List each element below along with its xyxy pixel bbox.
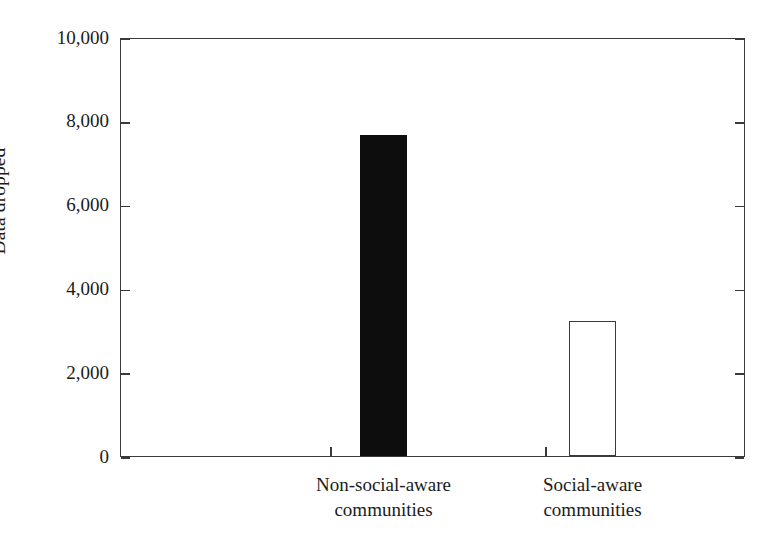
- y-tick-mark: [121, 206, 130, 208]
- y-tick-mark: [121, 290, 130, 292]
- x-tick-mark: [330, 447, 332, 456]
- y-tick-mark: [121, 122, 130, 124]
- x-axis-category-label: Non-social-awarecommunities: [264, 472, 504, 522]
- filled-black-bar: [360, 135, 407, 456]
- y-tick-mark: [735, 373, 744, 375]
- y-tick-mark: [121, 38, 130, 40]
- y-tick-label: 8,000: [0, 110, 109, 132]
- plot-area: 02,0004,0006,0008,00010,000Non-social-aw…: [120, 38, 745, 457]
- y-tick-mark: [735, 206, 744, 208]
- y-tick-label: 10,000: [0, 27, 109, 49]
- y-tick-label: 6,000: [0, 194, 109, 216]
- x-axis-category-label-line: communities: [264, 497, 504, 522]
- y-tick-label: 4,000: [0, 278, 109, 300]
- open-white-bar: [569, 321, 616, 456]
- bar-chart-figure: Data dropped 02,0004,0006,0008,00010,000…: [0, 0, 783, 541]
- x-axis-category-label-line: Social-aware: [473, 472, 713, 497]
- x-axis-category-label: Social-awarecommunities: [473, 472, 713, 522]
- y-tick-label: 2,000: [0, 362, 109, 384]
- y-tick-mark: [121, 457, 130, 459]
- y-tick-mark: [735, 38, 744, 40]
- y-tick-mark: [735, 457, 744, 459]
- y-tick-mark: [735, 122, 744, 124]
- x-axis-category-label-line: Non-social-aware: [264, 472, 504, 497]
- y-tick-mark: [735, 290, 744, 292]
- x-axis-category-label-line: communities: [473, 497, 713, 522]
- y-tick-label: 0: [0, 446, 109, 468]
- x-tick-mark: [545, 447, 547, 456]
- y-tick-mark: [121, 373, 130, 375]
